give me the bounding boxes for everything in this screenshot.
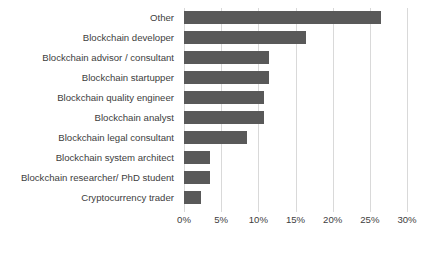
bar-track [184,148,407,168]
bar-track [184,108,407,128]
category-label: Blockchain startupper [82,68,174,88]
category-label: Blockchain quality engineer [57,88,174,108]
bar-track [184,28,407,48]
category-label: Blockchain system architect [56,148,174,168]
x-tick-label: 15% [286,214,305,225]
bar [184,31,306,44]
bar-track [184,68,407,88]
plot-area [184,8,407,212]
x-tick-label: 20% [323,214,342,225]
value-axis: 0%5%10%15%20%25%30% [184,214,407,234]
bar [184,131,247,144]
bar [184,11,381,24]
bar [184,71,269,84]
bar [184,151,210,164]
category-label: Other [150,8,174,28]
x-tick-label: 0% [177,214,191,225]
bar-track [184,188,407,208]
bar [184,111,264,124]
bar-chart: OtherBlockchain developerBlockchain advi… [0,0,426,254]
category-label: Blockchain developer [83,28,174,48]
category-label: Cryptocurrency trader [81,188,174,208]
bar-track [184,128,407,148]
category-label: Blockchain analyst [95,108,174,128]
bar [184,171,210,184]
x-tick-label: 25% [360,214,379,225]
category-axis: OtherBlockchain developerBlockchain advi… [0,8,180,212]
bar [184,51,269,64]
bar-track [184,88,407,108]
bar-track [184,48,407,68]
category-label: Blockchain legal consultant [58,128,174,148]
bar [184,191,201,204]
category-label: Blockchain advisor / consultant [42,48,174,68]
x-tick-label: 5% [214,214,228,225]
category-label: Blockchain researcher/ PhD student [21,168,174,188]
bar-track [184,168,407,188]
x-tick-label: 30% [397,214,416,225]
x-tick-label: 10% [249,214,268,225]
bar [184,91,264,104]
bar-track [184,8,407,28]
gridline-30% [407,8,408,212]
